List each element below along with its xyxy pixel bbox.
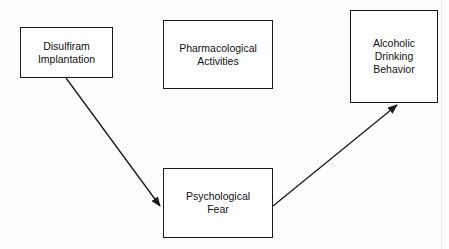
node-pharmacological-activities: Pharmacological Activities: [163, 20, 273, 89]
node-psychological-fear: Psychological Fear: [163, 168, 273, 238]
diagram-canvas: Disulfiram Implantation Pharmacological …: [0, 0, 449, 249]
node-alcoholic-drinking-behavior: Alcoholic Drinking Behavior: [350, 10, 438, 103]
node-disulfiram-implantation: Disulfiram Implantation: [20, 27, 113, 78]
page-edge-divider: [441, 0, 442, 249]
arrow-disulfiram-to-fear: [66, 78, 160, 206]
arrow-fear-to-alcoholic: [273, 105, 397, 206]
